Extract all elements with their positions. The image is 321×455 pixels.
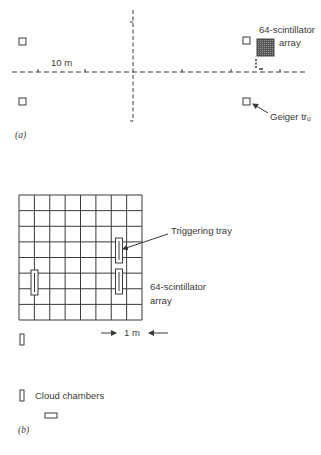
geiger-arrow [253,104,268,113]
array-label-b-line2: array [150,296,172,306]
geiger-tray-label: Geiger trᵤ [270,112,311,122]
panel-b-label: (b) [18,426,29,436]
triggering-tray-left [31,270,38,295]
geiger-tray-bottom-right [243,98,250,105]
geiger-tray-bottom-left [19,98,26,105]
scale-label-1m: 1 m [124,328,140,338]
cloud-chamber-horizontal [45,413,57,418]
cloud-chamber-vertical-2 [20,390,24,401]
panel-b [19,195,168,418]
array-label-a-line2: array [279,38,301,48]
scale-label-10m: 10 m [51,58,72,68]
panel-a-label: (a) [15,131,26,141]
scintillator-array-small [257,39,274,56]
triggering-tray-lower [116,269,123,294]
figure-canvas [0,0,321,455]
scintillator-grid [19,195,142,320]
geiger-tray-top-left [19,38,26,45]
triggering-tray-label: Triggering tray [171,226,232,236]
array-label-a-line1: 64-scintillator [259,25,315,35]
geiger-tray-top-right [243,37,250,44]
cloud-chamber-vertical-1 [20,334,24,345]
array-label-b-line1: 64-scintillator [150,282,206,292]
cloud-chambers-label: Cloud chambers [35,391,104,401]
triggering-tray-upper [116,238,123,263]
